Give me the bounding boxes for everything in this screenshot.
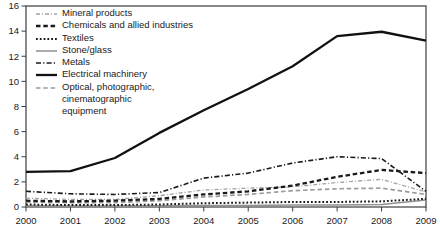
legend-line-sample-stone-glass <box>36 46 57 56</box>
x-tick-label: 2003 <box>149 215 170 226</box>
legend-item-chemicals: Chemicals and allied industries <box>36 19 193 31</box>
line-chart-figure: 0246810121416200020012002200320042005200… <box>0 0 440 241</box>
legend-item-stone-glass: Stone/glass <box>36 44 193 56</box>
series-line-chemicals <box>26 170 426 201</box>
x-tick-label: 2000 <box>15 215 36 226</box>
x-tick-label: 2007 <box>327 215 348 226</box>
y-tick-label: 14 <box>8 25 19 36</box>
legend-label: Metals <box>62 56 90 68</box>
legend-line-sample-optical-photographic <box>36 83 57 93</box>
chart-legend: Mineral productsChemicals and allied ind… <box>36 7 193 118</box>
legend-item-textiles: Textiles <box>36 32 193 44</box>
legend-line-sample-mineral-products <box>36 9 57 19</box>
legend-label-line: equipment <box>62 105 154 117</box>
x-tick-label: 2009 <box>415 215 436 226</box>
legend-label: Stone/glass <box>62 44 112 56</box>
legend-line-sample-electrical-machinery <box>36 70 57 80</box>
legend-label: Mineral products <box>62 7 132 19</box>
x-tick-label: 2004 <box>193 215 214 226</box>
x-tick-label: 2006 <box>282 215 303 226</box>
legend-item-optical-photographic: Optical, photographic,cinematographicequ… <box>36 81 193 118</box>
legend-label-text: Stone/glass <box>62 44 112 55</box>
legend-label-text: Mineral products <box>62 7 132 18</box>
legend-line-sample-metals <box>36 58 57 68</box>
legend-item-mineral-products: Mineral products <box>36 7 193 19</box>
legend-label: Textiles <box>62 32 94 44</box>
y-tick-label: 10 <box>8 76 19 87</box>
legend-line-sample-textiles <box>36 34 57 44</box>
y-tick-label: 6 <box>14 126 19 137</box>
y-tick-label: 12 <box>8 51 19 62</box>
legend-label: Optical, photographic,cinematographicequ… <box>62 81 154 118</box>
legend-line-sample-chemicals <box>36 21 57 31</box>
y-tick-label: 0 <box>14 201 19 212</box>
x-tick-label: 2008 <box>371 215 392 226</box>
legend-label-text: Textiles <box>62 32 94 43</box>
legend-label-text: Chemicals and allied industries <box>62 19 193 30</box>
y-tick-label: 2 <box>14 176 19 187</box>
legend-item-metals: Metals <box>36 56 193 68</box>
legend-label-text: Electrical machinery <box>62 68 147 79</box>
legend-label-text: Metals <box>62 56 90 67</box>
legend-label-line: cinematographic <box>62 93 154 105</box>
y-tick-label: 4 <box>14 151 19 162</box>
x-tick-label: 2005 <box>238 215 259 226</box>
legend-label-line: Optical, photographic, <box>62 81 154 93</box>
legend-label: Electrical machinery <box>62 68 147 80</box>
legend-label: Chemicals and allied industries <box>62 19 193 31</box>
x-tick-label: 2001 <box>60 215 81 226</box>
y-tick-label: 8 <box>14 101 19 112</box>
x-tick-label: 2002 <box>104 215 125 226</box>
legend-item-electrical-machinery: Electrical machinery <box>36 68 193 80</box>
y-tick-label: 16 <box>8 0 19 11</box>
